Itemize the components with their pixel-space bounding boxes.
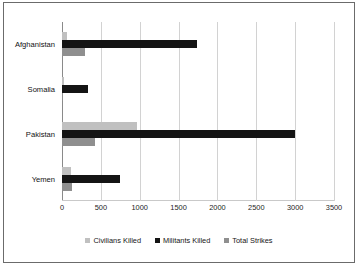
legend-label: Militants Killed bbox=[163, 236, 210, 245]
x-tick-1500: 1500 bbox=[170, 203, 186, 212]
bar-row bbox=[62, 167, 334, 175]
x-tick-2000: 2000 bbox=[209, 203, 225, 212]
x-tick-2500: 2500 bbox=[248, 203, 264, 212]
x-tick-1000: 1000 bbox=[131, 203, 147, 212]
bar-afghanistan-civilians-killed bbox=[62, 32, 67, 40]
legend-swatch-icon bbox=[155, 238, 160, 243]
bar-afghanistan-militants-killed bbox=[62, 40, 197, 48]
bar-group bbox=[62, 67, 334, 112]
x-tick-3500: 3500 bbox=[326, 203, 342, 212]
bar-row bbox=[62, 48, 334, 56]
bar-pakistan-militants-killed bbox=[62, 130, 295, 138]
legend-item-militants-killed[interactable]: Militants Killed bbox=[155, 236, 210, 245]
y-axis-labels: AfghanistanSomaliaPakistanYemen bbox=[0, 22, 58, 201]
legend-item-civilians-killed[interactable]: Civilians Killed bbox=[85, 236, 141, 245]
legend-swatch-icon bbox=[85, 238, 90, 243]
bar-group bbox=[62, 22, 334, 67]
bar-afghanistan-total-strikes bbox=[62, 48, 85, 56]
y-axis-label-yemen: Yemen bbox=[32, 174, 55, 183]
bar-yemen-total-strikes bbox=[62, 183, 72, 191]
y-axis-label-pakistan: Pakistan bbox=[26, 129, 55, 138]
chart-container: AfghanistanSomaliaPakistanYemen 05001000… bbox=[0, 0, 358, 267]
x-tick-0: 0 bbox=[60, 203, 64, 212]
bar-row bbox=[62, 77, 334, 85]
plot-area bbox=[62, 22, 334, 201]
x-axis-tick-labels: 0500100015002000250030003500 bbox=[0, 203, 358, 217]
bar-row bbox=[62, 32, 334, 40]
bar-pakistan-civilians-killed bbox=[62, 122, 137, 130]
bar-row bbox=[62, 175, 334, 183]
bar-somalia-civilians-killed bbox=[62, 77, 64, 85]
bar-group bbox=[62, 112, 334, 157]
legend-item-total-strikes[interactable]: Total Strikes bbox=[224, 236, 272, 245]
bar-row bbox=[62, 122, 334, 130]
bar-row bbox=[62, 40, 334, 48]
legend-label: Total Strikes bbox=[232, 236, 272, 245]
bar-group bbox=[62, 156, 334, 201]
legend-label: Civilians Killed bbox=[93, 236, 141, 245]
x-tick-3000: 3000 bbox=[287, 203, 303, 212]
bar-row bbox=[62, 130, 334, 138]
bar-row bbox=[62, 183, 334, 191]
gridline bbox=[334, 22, 335, 201]
legend-swatch-icon bbox=[224, 238, 229, 243]
chart-legend: Civilians KilledMilitants KilledTotal St… bbox=[0, 236, 358, 245]
bar-row bbox=[62, 85, 334, 93]
bar-yemen-civilians-killed bbox=[62, 167, 71, 175]
bar-somalia-total-strikes bbox=[62, 93, 63, 101]
x-tick-500: 500 bbox=[95, 203, 107, 212]
bar-pakistan-total-strikes bbox=[62, 138, 95, 146]
bar-row bbox=[62, 93, 334, 101]
y-axis-label-somalia: Somalia bbox=[28, 85, 55, 94]
bar-row bbox=[62, 138, 334, 146]
bar-somalia-militants-killed bbox=[62, 85, 88, 93]
y-axis-label-afghanistan: Afghanistan bbox=[15, 40, 55, 49]
bar-yemen-militants-killed bbox=[62, 175, 120, 183]
